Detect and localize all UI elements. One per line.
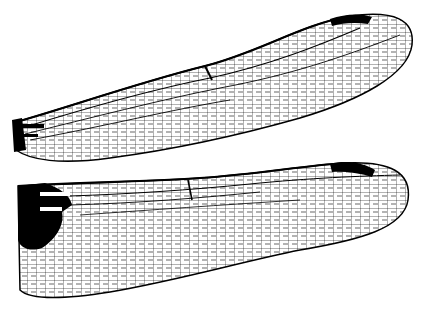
hindwing	[18, 162, 408, 298]
forewing	[12, 14, 412, 161]
wings-figure	[0, 0, 422, 324]
figure-caption	[130, 308, 300, 318]
